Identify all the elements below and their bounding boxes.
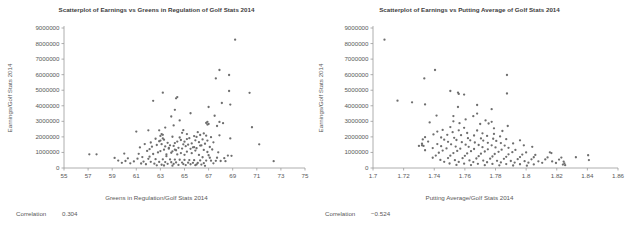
svg-text:1000000: 1000000 <box>35 148 60 155</box>
x-axis-label-right: Putting Average/Golf Stats 2014 <box>313 194 626 201</box>
svg-text:71: 71 <box>253 172 260 179</box>
svg-text:1.74: 1.74 <box>428 172 441 179</box>
svg-text:1.8: 1.8 <box>522 172 531 179</box>
svg-text:Earnings/Golf Stats 2014: Earnings/Golf Stats 2014 <box>6 63 13 132</box>
svg-text:6000000: 6000000 <box>35 71 60 78</box>
svg-text:9000000: 9000000 <box>344 24 369 31</box>
chart-panel-putting-average: Scatterplot of Earnings vs Putting Avera… <box>313 0 626 234</box>
chart-title-right: Scatterplot of Earnings vs Putting Avera… <box>313 6 626 13</box>
plot-area-left: 0100000020000003000000400000050000006000… <box>0 22 313 182</box>
svg-text:65: 65 <box>181 172 188 179</box>
svg-text:1000000: 1000000 <box>344 148 369 155</box>
correlation-label-right: Correlation <box>325 210 355 217</box>
svg-text:1.78: 1.78 <box>489 172 502 179</box>
svg-text:2000000: 2000000 <box>35 133 60 140</box>
svg-text:0: 0 <box>56 164 60 171</box>
svg-text:59: 59 <box>109 172 116 179</box>
svg-text:5000000: 5000000 <box>344 86 369 93</box>
svg-text:8000000: 8000000 <box>344 40 369 47</box>
data-points <box>88 39 275 167</box>
svg-text:1.76: 1.76 <box>459 172 472 179</box>
svg-text:3000000: 3000000 <box>35 117 60 124</box>
svg-text:0: 0 <box>365 164 369 171</box>
svg-text:5000000: 5000000 <box>35 86 60 93</box>
svg-text:1.86: 1.86 <box>612 172 625 179</box>
x-axis-label-left: Greens in Regulation/Golf Stats 2014 <box>0 194 313 201</box>
svg-text:63: 63 <box>157 172 164 179</box>
svg-text:61: 61 <box>133 172 140 179</box>
svg-text:Earnings/Golf Stats 2014: Earnings/Golf Stats 2014 <box>317 63 324 132</box>
svg-text:1.82: 1.82 <box>551 172 564 179</box>
chart-title-left: Scatterplot of Earnings vs Greens in Reg… <box>0 6 313 13</box>
svg-text:1.72: 1.72 <box>398 172 411 179</box>
scatter-svg-left: 0100000020000003000000400000050000006000… <box>0 22 313 192</box>
svg-text:3000000: 3000000 <box>344 117 369 124</box>
scatter-svg-right: 0100000020000003000000400000050000006000… <box>313 22 626 192</box>
svg-text:8000000: 8000000 <box>35 40 60 47</box>
svg-text:69: 69 <box>229 172 236 179</box>
svg-text:73: 73 <box>277 172 284 179</box>
svg-text:55: 55 <box>61 172 68 179</box>
correlation-value-left: 0.304 <box>62 210 77 217</box>
svg-text:1.7: 1.7 <box>369 172 378 179</box>
scatterplot-figure-pair: Scatterplot of Earnings vs Greens in Reg… <box>0 0 626 234</box>
correlation-value-right: −0.524 <box>371 210 390 217</box>
data-points <box>383 39 590 167</box>
svg-text:75: 75 <box>302 172 309 179</box>
svg-text:4000000: 4000000 <box>35 102 60 109</box>
plot-area-right: 0100000020000003000000400000050000006000… <box>313 22 626 182</box>
svg-text:4000000: 4000000 <box>344 102 369 109</box>
svg-text:57: 57 <box>85 172 92 179</box>
svg-text:1.84: 1.84 <box>581 172 594 179</box>
svg-text:67: 67 <box>205 172 212 179</box>
correlation-label-left: Correlation <box>16 210 46 217</box>
svg-text:9000000: 9000000 <box>35 24 60 31</box>
svg-text:6000000: 6000000 <box>344 71 369 78</box>
chart-panel-greens-in-regulation: Scatterplot of Earnings vs Greens in Reg… <box>0 0 313 234</box>
svg-text:2000000: 2000000 <box>344 133 369 140</box>
svg-text:7000000: 7000000 <box>344 55 369 62</box>
svg-text:7000000: 7000000 <box>35 55 60 62</box>
